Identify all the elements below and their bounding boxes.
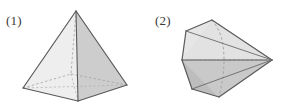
figure-2-hexagonal-pyramid <box>0 0 282 109</box>
geometry-figure-panel: (1) (2) <box>0 0 282 109</box>
figure-1-label: (1) <box>6 14 22 27</box>
figure-2-label: (2) <box>155 14 171 27</box>
